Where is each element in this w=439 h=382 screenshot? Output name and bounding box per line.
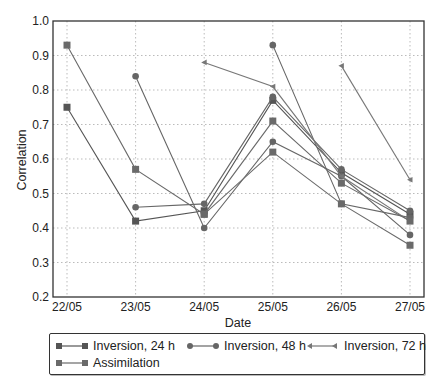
legend-item-inversion-72h: Inversion, 72 h (306, 339, 426, 353)
circle-marker-icon (186, 341, 220, 351)
svg-text:22/05: 22/05 (52, 300, 82, 314)
svg-text:0.7: 0.7 (32, 118, 49, 132)
grid-lines (53, 21, 424, 297)
svg-text:0.6: 0.6 (32, 152, 49, 166)
svg-text:25/05: 25/05 (258, 300, 288, 314)
svg-text:0.9: 0.9 (32, 49, 49, 63)
svg-text:0.3: 0.3 (32, 256, 49, 270)
svg-text:0.2: 0.2 (32, 290, 49, 304)
series-lines (64, 42, 414, 249)
legend-item-assimilation: Assimilation (55, 356, 160, 370)
legend-item-inversion-24h: Inversion, 24 h (55, 339, 175, 353)
legend-label: Assimilation (93, 356, 160, 370)
square-marker-icon (55, 341, 89, 351)
svg-text:0.8: 0.8 (32, 83, 49, 97)
legend-item-inversion-48h: Inversion, 48 h (186, 339, 306, 353)
x-axis-label: Date (225, 316, 251, 330)
svg-text:27/05: 27/05 (395, 300, 425, 314)
y-axis-label: Correlation (15, 129, 29, 190)
svg-text:1.0: 1.0 (32, 14, 49, 28)
svg-text:26/05: 26/05 (326, 300, 356, 314)
legend-label: Inversion, 72 h (344, 339, 426, 353)
x-tick-labels: 22/0523/0524/0525/0526/0527/05 (52, 300, 425, 314)
legend-label: Inversion, 48 h (224, 339, 306, 353)
svg-text:24/05: 24/05 (189, 300, 219, 314)
svg-text:23/05: 23/05 (121, 300, 151, 314)
svg-text:0.5: 0.5 (32, 187, 49, 201)
triangle-marker-icon (306, 341, 340, 351)
svg-text:0.4: 0.4 (32, 221, 49, 235)
y-tick-labels: 0.20.30.40.50.60.70.80.91.0 (32, 14, 49, 304)
legend: Inversion, 24 h Inversion, 48 h Inversio… (49, 333, 425, 375)
legend-label: Inversion, 24 h (93, 339, 175, 353)
correlation-chart: 0.20.30.40.50.60.70.80.91.0 22/0523/0524… (0, 0, 439, 332)
square-marker-icon (55, 358, 89, 368)
